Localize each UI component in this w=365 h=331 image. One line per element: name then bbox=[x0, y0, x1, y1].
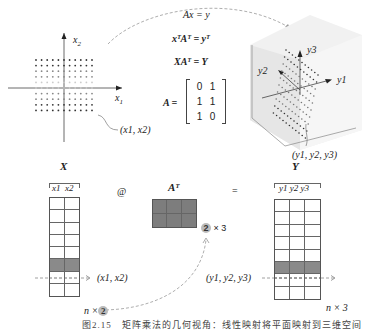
matrix-at-grid bbox=[152, 199, 197, 228]
matrix-a-entry: 1 bbox=[193, 110, 206, 123]
matrix-cell bbox=[290, 250, 305, 262]
matrix-cell bbox=[65, 210, 80, 222]
matrix-a: 011110 bbox=[186, 79, 226, 124]
matrix-cell bbox=[275, 212, 290, 224]
matrix-cell bbox=[50, 235, 65, 247]
matrix-cell bbox=[305, 274, 320, 286]
matrix-cell bbox=[275, 287, 290, 299]
matrix-a-entry: 1 bbox=[206, 95, 219, 108]
y3-axis-label: y3 bbox=[307, 44, 316, 55]
matrix-x-dim: n ×2 bbox=[84, 305, 108, 316]
equation-transpose: xᵀAᵀ = yᵀ bbox=[172, 33, 210, 44]
matrix-cell bbox=[65, 272, 80, 284]
matrix-cell bbox=[305, 250, 320, 262]
matrix-y-title: Y bbox=[292, 160, 299, 172]
matrix-cell bbox=[65, 198, 80, 210]
matrix-a-entry: 0 bbox=[206, 110, 219, 123]
matrix-a-entry: 0 bbox=[193, 80, 206, 93]
matrix-cell bbox=[50, 247, 65, 259]
matrix-cell bbox=[275, 262, 290, 274]
matrix-cell bbox=[65, 235, 80, 247]
matrix-cell bbox=[305, 237, 320, 249]
matrix-x-title: X bbox=[60, 160, 67, 172]
matrix-cell bbox=[290, 212, 305, 224]
matrix-cell bbox=[50, 223, 65, 235]
matrix-cell bbox=[65, 223, 80, 235]
matrix-cell bbox=[153, 214, 167, 228]
matrix-a-entry: 1 bbox=[193, 95, 206, 108]
matrix-cell bbox=[290, 262, 305, 274]
matrix-cell bbox=[275, 274, 290, 286]
matrix-cell bbox=[50, 272, 65, 284]
matrix-cell bbox=[275, 225, 290, 237]
matrix-cell bbox=[182, 200, 196, 214]
matrix-cell bbox=[182, 214, 196, 228]
matrix-x-grid bbox=[49, 197, 80, 297]
matrix-at-title: Aᵀ bbox=[168, 181, 179, 193]
matrix-cell bbox=[50, 210, 65, 222]
figure-caption: 图2.15 矩阵乘法的几何视角：线性映射将平面映射到三维空间 bbox=[82, 318, 362, 331]
matrix-x-col-headers: x1 x2 bbox=[52, 183, 74, 193]
point-label-x: (x1, x2) bbox=[120, 124, 151, 135]
matrix-cell bbox=[305, 262, 320, 274]
matrix-at-dim: 2 × 3 bbox=[201, 223, 226, 233]
matrix-cell bbox=[305, 212, 320, 224]
matrix-cell bbox=[275, 250, 290, 262]
equation-ax-y: Ax = y bbox=[183, 9, 210, 20]
y2-axis-label: y2 bbox=[258, 65, 267, 76]
matrix-a-name: A = bbox=[163, 97, 177, 108]
y1-axis-label: y1 bbox=[337, 74, 346, 85]
matrix-cell bbox=[50, 198, 65, 210]
matrix-y-row-label: (y1, y2, y3) bbox=[206, 272, 251, 283]
matrix-cell bbox=[275, 237, 290, 249]
matrix-cell bbox=[65, 259, 80, 271]
matrix-cell bbox=[167, 214, 181, 228]
matrix-cell bbox=[290, 287, 305, 299]
point-label-y: (y1, y2, y3) bbox=[292, 149, 337, 160]
equation-matrix: XAᵀ = Y bbox=[174, 56, 208, 67]
matrix-y-dim: n × 3 bbox=[326, 302, 348, 313]
matrix-cell bbox=[305, 287, 320, 299]
matrix-cell bbox=[275, 200, 290, 212]
matrix-cell bbox=[50, 284, 65, 296]
matrix-y-col-headers: y1 y2 y3 bbox=[279, 183, 309, 193]
matrix-y-grid bbox=[274, 199, 321, 300]
matmul-operator: @ bbox=[117, 186, 126, 197]
matrix-cell bbox=[290, 200, 305, 212]
matrix-cell bbox=[290, 225, 305, 237]
matrix-a-entry: 1 bbox=[206, 80, 219, 93]
matrix-cell bbox=[65, 247, 80, 259]
matrix-x-row-label: (x1, x2) bbox=[97, 272, 128, 283]
matrix-cell bbox=[153, 200, 167, 214]
x2-axis-label: x2 bbox=[73, 34, 81, 48]
matrix-cell bbox=[305, 200, 320, 212]
equals-operator: = bbox=[232, 185, 238, 196]
matrix-cell bbox=[305, 225, 320, 237]
matrix-cell bbox=[167, 200, 181, 214]
matrix-cell bbox=[50, 259, 65, 271]
x1-axis-label: x1 bbox=[115, 92, 123, 106]
matrix-cell bbox=[290, 237, 305, 249]
matrix-cell bbox=[290, 274, 305, 286]
matrix-cell bbox=[65, 284, 80, 296]
